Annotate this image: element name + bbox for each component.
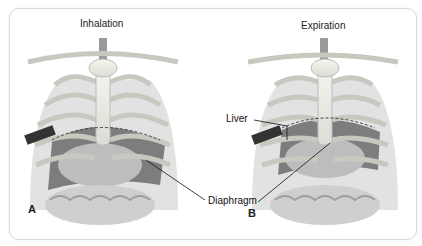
ribcage-illustrations [0,0,422,246]
diaphragm-label: Diaphragm [208,195,257,206]
liver-label: Liver [226,113,248,124]
panel-a-letter: A [28,203,36,215]
ribcage-expiration [248,38,398,225]
panel-b-letter: B [248,207,256,219]
ribcage-inhalation [24,38,178,225]
panel-a-title: Inhalation [80,18,123,29]
panel-b-title: Expiration [301,20,345,31]
